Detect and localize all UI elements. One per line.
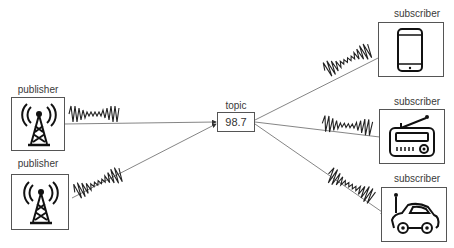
arrow-publisher1-to-topic (64, 122, 216, 124)
publisher-2-box (11, 174, 69, 230)
radio-tower-icon (12, 175, 70, 231)
publisher-1-label: publisher (10, 84, 66, 95)
topic-value: 98.7 (218, 116, 254, 128)
subscriber-1-label: subscriber (385, 8, 449, 19)
wave-publisher2 (72, 166, 124, 200)
wave-publisher1 (69, 106, 119, 122)
topic-label: topic (217, 100, 255, 111)
subscriber-2-label: subscriber (385, 96, 449, 107)
car-icon (382, 188, 448, 243)
pubsub-diagram: publisher publisher topic 98.7 (0, 0, 454, 248)
radio-tower-icon (12, 98, 66, 152)
smartphone-icon (379, 23, 445, 78)
arrow-topic-to-subscriber3 (255, 124, 385, 214)
topic-box: 98.7 (217, 112, 255, 132)
wave-subscriber2 (322, 115, 373, 135)
subscriber-3-box (381, 187, 447, 242)
subscriber-3-label: subscriber (385, 173, 449, 184)
publisher-2-label: publisher (10, 158, 66, 169)
wave-subscriber1 (321, 42, 373, 78)
arrow-topic-to-subscriber1 (255, 52, 390, 120)
radio-icon (380, 110, 446, 165)
publisher-1-box (11, 97, 65, 151)
subscriber-1-box (378, 22, 444, 77)
wave-subscriber3 (325, 167, 377, 205)
subscriber-2-box (379, 109, 445, 164)
